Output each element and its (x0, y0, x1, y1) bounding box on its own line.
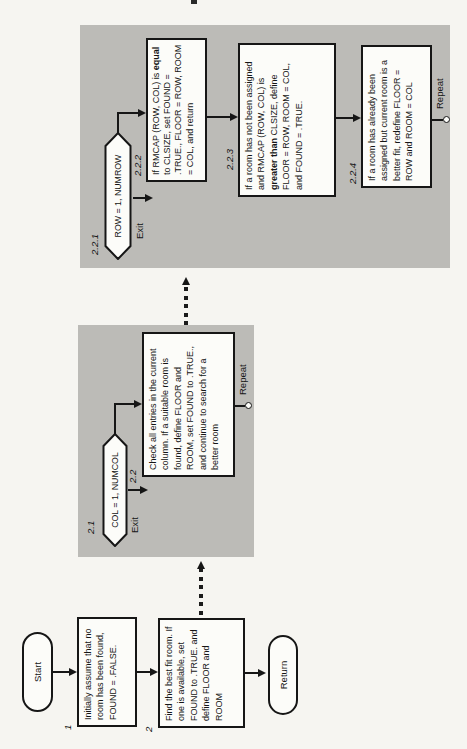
arrowhead-icon (197, 561, 205, 569)
exit-line (133, 197, 145, 199)
process-box-2-2-3: If a room has not been assigned and RMCA… (238, 43, 336, 197)
flow-line (137, 671, 150, 673)
process-box-2-2-2: If RMCAP (ROW, COL) is equal to CLSIZE, … (146, 38, 207, 182)
refinement-panel-2-2-1: 2.2.1 ROW = 1, NUMROW Exit 2.2.2 If RMCA… (80, 25, 450, 268)
repeat-line (432, 119, 443, 121)
arrowhead-icon (150, 669, 158, 677)
box2-2-4-number: 2.2.4 (348, 163, 358, 184)
refinement-dotted-arrow (199, 569, 203, 615)
exit-label: Exit (135, 223, 145, 239)
process-box-2-2-4-text: If a room has already been assigned but … (367, 60, 414, 181)
process-box-1: Initially assume that no room has been f… (77, 617, 137, 727)
scanned-flowchart-page: Start 1 Initially assume that no room ha… (0, 0, 467, 749)
exit-line (128, 489, 140, 491)
box2-2-number: 2.2 (128, 470, 138, 483)
process-box-2-2-2-text: If RMCAP (ROW, COL) is equal to CLSIZE, … (151, 45, 195, 175)
arrowhead-icon (353, 115, 361, 123)
process-box-2-text: Find the best fit room. If one is availa… (164, 626, 224, 721)
arrowhead-icon (230, 114, 238, 122)
arrowhead-icon (69, 669, 77, 677)
loop-2-2-1-text: ROW = 1, NUMROW (104, 132, 132, 260)
arrowhead-icon (182, 277, 190, 285)
arrowhead-icon (258, 670, 266, 678)
loop-2-2-1-number: 2.2.1 (90, 234, 100, 255)
process-box-1-text: Initially assume that no room has been f… (83, 628, 118, 720)
return-label: Return (278, 661, 289, 690)
flowchart-stage: Start 1 Initially assume that no room ha… (0, 0, 467, 749)
exit-label: Exit (130, 517, 140, 533)
flow-line (114, 403, 116, 434)
process-box-2-2-4: If a room has already been assigned but … (361, 45, 432, 188)
loop-hexagon-2-1: COL = 1, NUMCOL (102, 433, 128, 547)
refinement-panel-2-1: 2.1 COL = 1, NUMCOL Exit 2.2 Check all e… (78, 325, 254, 557)
flow-line (336, 117, 353, 119)
repeat-connector-circle (245, 403, 252, 410)
flow-line (114, 403, 134, 405)
loop-2-1-text: COL = 1, NUMCOL (102, 433, 128, 547)
arrowhead-icon (145, 195, 153, 203)
loop-hexagon-2-2-1: ROW = 1, NUMROW (104, 132, 132, 260)
repeat-connector-circle (443, 117, 450, 124)
process-box-2: Find the best fit room. If one is availa… (158, 618, 245, 728)
process-box-2-2-text: Check all entries in the current column.… (148, 346, 220, 470)
flow-line (207, 116, 230, 118)
start-terminal: Start (22, 632, 53, 712)
repeat-label: Repeat (238, 364, 248, 395)
box2-2-2-number: 2.2.2 (133, 155, 143, 176)
flow-line (117, 112, 119, 133)
repeat-line (235, 405, 245, 407)
box1-number: 1 (63, 725, 73, 730)
box2-2-3-number: 2.2.3 (225, 149, 235, 170)
repeat-label: Repeat (435, 78, 445, 109)
box2-number: 2 (144, 727, 154, 732)
flow-line (245, 672, 258, 674)
arrowhead-icon (138, 110, 146, 118)
refinement-dotted-arrow (184, 285, 188, 325)
flow-line (53, 671, 69, 673)
flow-line (117, 112, 138, 114)
loop-2-1-number: 2.1 (86, 521, 96, 534)
process-box-2-2: Check all entries in the current column.… (142, 332, 235, 477)
arrowhead-icon (140, 487, 148, 495)
cropped-scan-artifact (191, 0, 197, 4)
process-box-2-2-3-text: If a room has not been assigned and RMCA… (244, 61, 304, 190)
arrowhead-icon (134, 401, 142, 409)
return-terminal: Return (268, 635, 298, 715)
start-label: Start (32, 662, 43, 682)
